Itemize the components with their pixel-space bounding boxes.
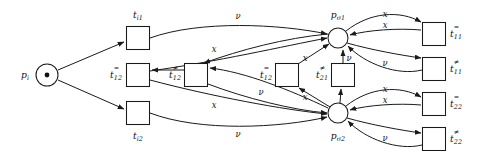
arc-lbl-x-upper-mid: x xyxy=(212,44,217,54)
label-transition-t-22-eq: t=22 xyxy=(450,93,462,111)
arc-pi-to-ti2 xyxy=(58,80,124,109)
arc-lbl-x-to-sigma1: x xyxy=(303,53,308,63)
label-transition-t-i1: ti1 xyxy=(133,9,143,22)
transition-t-11-eq[interactable] xyxy=(423,23,446,46)
label-transition-t-11-eq: t=11 xyxy=(450,23,462,41)
arc-lbl-x-t11-second: x xyxy=(383,20,388,30)
arc-lbl-nu-bottom: ν xyxy=(235,129,240,139)
arc-lbl-nu-t21-up: ν xyxy=(346,53,351,63)
arc-lbl-nu-top: ν xyxy=(235,11,240,21)
place-p-sigma1[interactable] xyxy=(328,28,348,48)
transition-t-12-eq[interactable] xyxy=(127,64,150,87)
arc-lbl-x-t22-top: x xyxy=(383,84,388,94)
arc-psigma2-to-t21neq xyxy=(340,89,341,103)
arc-lbl-x-to-sigma2: x xyxy=(303,92,308,102)
arc-ti2-to-psigma2 xyxy=(150,113,327,126)
token-p-i xyxy=(45,73,50,78)
transition-t-12-eq-center[interactable] xyxy=(276,64,299,87)
transition-t-12-neq[interactable] xyxy=(185,64,208,87)
arc-psigma2-to-t22neq xyxy=(347,118,421,133)
label-transition-t-22-neq: t≠22 xyxy=(450,128,462,146)
arc-psigma1-to-t11neq xyxy=(347,43,421,58)
label-transition-t-i2: ti2 xyxy=(133,130,143,143)
arc-t11eq-to-psigma1 xyxy=(350,29,421,35)
arc-lbl-nu-mid-low: ν xyxy=(258,87,263,97)
label-place-p-sigma1: pσ1 xyxy=(331,9,345,22)
transition-t-i1[interactable] xyxy=(127,27,150,50)
arc-t22eq-to-psigma2 xyxy=(350,104,421,110)
arc-ti1-to-psigma1 xyxy=(150,26,327,39)
label-transition-t-21-neq: t≠21 xyxy=(316,64,328,82)
petri-net-figure: pi pσ1 pσ2 ti1 ti2 t=12 t≠12 t=12 t≠21 t… xyxy=(0,0,483,151)
label-transition-t-12-eq-center: t=12 xyxy=(260,64,272,82)
petri-net-canvas: pi pσ1 pσ2 ti1 ti2 t=12 t≠12 t=12 t≠21 t… xyxy=(0,0,483,151)
arc-lbl-nu-t22-bottom: ν xyxy=(382,133,387,143)
transition-t-11-neq[interactable] xyxy=(423,58,446,81)
arc-layer xyxy=(58,15,422,147)
transition-t-i2[interactable] xyxy=(127,102,150,125)
label-transition-t-12-eq: t=12 xyxy=(110,64,122,82)
arc-t12neq-to-psigma2 xyxy=(208,84,327,113)
arc-lbl-nu-t11-bottom: ν xyxy=(382,58,387,68)
arc-lbl-x-lower-mid: x xyxy=(212,100,217,110)
label-place-p-i: pi xyxy=(21,69,29,82)
label-place-p-sigma2: pσ2 xyxy=(331,130,345,143)
arc-t12eq-to-psigma2 xyxy=(150,80,327,114)
transition-t-22-neq[interactable] xyxy=(423,128,446,151)
label-transition-t-11-neq: t≠11 xyxy=(450,58,462,76)
arc-lbl-x-t22-second: x xyxy=(383,95,388,105)
transition-t-22-eq[interactable] xyxy=(423,93,446,116)
place-p-sigma2[interactable] xyxy=(328,103,348,123)
arc-lbl-x-t11-top: x xyxy=(383,9,388,19)
transition-t-21-neq[interactable] xyxy=(332,64,355,87)
